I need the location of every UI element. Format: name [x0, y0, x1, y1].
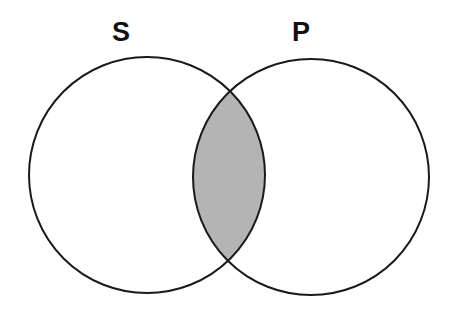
set-s-label: S	[112, 19, 130, 46]
set-p-label: P	[292, 19, 310, 46]
venn-diagram: S P	[0, 0, 452, 314]
venn-svg	[0, 0, 452, 314]
